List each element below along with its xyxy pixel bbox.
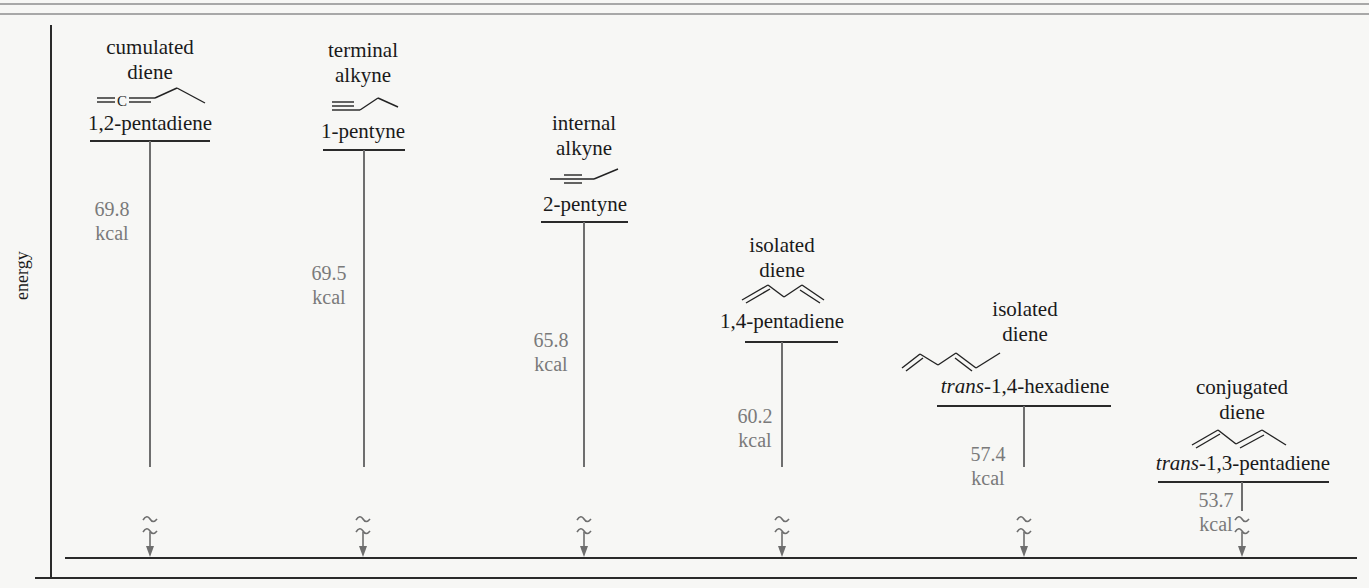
break-squiggle-icon [143, 517, 157, 522]
axis-break-arrows [0, 0, 1369, 588]
arrowhead-icons [146, 546, 1246, 557]
